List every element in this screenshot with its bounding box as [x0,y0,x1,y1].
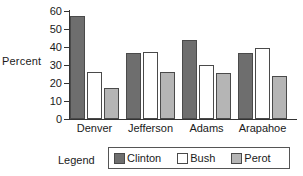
y-tick-label: 60 [40,6,62,17]
y-tick-label-wrap: 50 [38,24,62,35]
legend-item[interactable]: Perot [231,152,270,164]
bar-group [70,11,119,119]
bar-chart: Percent 0102030405060 DenverJeffersonAda… [0,0,303,176]
legend-item[interactable]: Clinton [114,152,161,164]
bar [199,65,214,119]
y-tick-label: 20 [40,78,62,89]
legend-item[interactable]: Bush [177,152,215,164]
y-tick-label: 40 [40,42,62,53]
legend-title: Legend [58,154,95,166]
y-tick-label: 50 [40,24,62,35]
bar [255,48,270,119]
y-tick-label-wrap: 20 [38,78,62,89]
y-tick-label: 10 [40,96,62,107]
bar [160,72,175,119]
y-tick-label-wrap: 60 [38,6,62,17]
y-axis-title: Percent [2,55,41,67]
x-axis-label: Arapahoe [224,122,301,135]
y-tick-label-wrap: 30 [38,60,62,71]
bar-group [238,11,287,119]
legend-swatch-icon [177,153,188,164]
bar [126,53,141,119]
bar [104,88,119,120]
bar [143,52,158,120]
legend: ClintonBushPerot [108,147,290,169]
bar [216,73,231,119]
legend-label: Clinton [127,152,161,164]
bar [272,76,287,119]
legend-label: Perot [244,152,270,164]
bar-group [126,11,175,119]
y-tick-mark [64,119,70,120]
legend-swatch-icon [231,153,242,164]
x-axis-line [64,119,297,120]
bar [87,72,102,119]
y-tick-label-wrap: 40 [38,42,62,53]
bar-group [182,11,231,119]
bar [182,40,197,119]
y-tick-label-wrap: 10 [38,96,62,107]
bar [70,16,85,119]
y-tick-label: 30 [40,60,62,71]
bar [238,53,253,119]
legend-label: Bush [190,152,215,164]
legend-swatch-icon [114,153,125,164]
